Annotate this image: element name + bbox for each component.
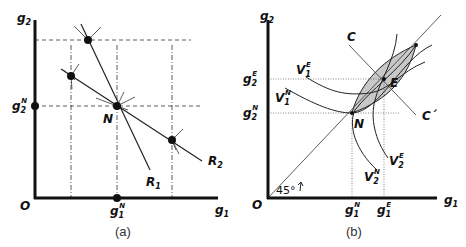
x-axis-label: g1: [215, 203, 229, 219]
x-axis-label: g1: [444, 193, 458, 209]
curve-label-R2: R2: [208, 154, 223, 170]
panel-b: g2 g1 O g2E g2N g1N g1E N E C C´ V1E V1N…: [243, 9, 458, 239]
point-left: [67, 72, 75, 80]
point-N: [113, 102, 121, 110]
point-E: [382, 77, 386, 81]
tick-label-g1E: g1E: [377, 201, 391, 219]
caption-a: (a): [115, 224, 131, 239]
curve-label-R1: R1: [146, 175, 161, 191]
line-label-C-prime: C´: [422, 109, 438, 123]
curve-label-V2E: V2E: [389, 152, 404, 170]
angle-label: 45°: [276, 184, 296, 197]
curve-label-V1N: V1N: [275, 89, 291, 107]
curve-label-V2N: V2N: [364, 168, 380, 186]
point-g2N: [31, 102, 39, 110]
point-top: [84, 36, 92, 44]
tick-label-g2N: g2N: [12, 97, 27, 115]
point-right: [168, 136, 176, 144]
figure: g2 g1 O g2N g1N N R1 R2 (a): [0, 0, 466, 247]
curve-V2E: [373, 34, 397, 158]
origin-label: O: [20, 199, 30, 213]
point-label-N: N: [354, 117, 364, 131]
line-label-C: C: [347, 30, 356, 44]
panel-a: g2 g1 O g2N g1N N R1 R2 (a): [12, 11, 229, 239]
point-label-E: E: [390, 76, 399, 90]
tick-label-g1N: g1N: [345, 201, 360, 219]
origin-label: O: [252, 198, 262, 212]
tick-label-g2N: g2N: [243, 104, 258, 122]
y-axis-label: g2: [17, 11, 32, 27]
point-label-N: N: [103, 112, 113, 126]
point-lens-top: [414, 43, 418, 47]
tick-label-g2E: g2E: [243, 70, 258, 88]
point-g1N: [113, 194, 121, 202]
curve-label-V1E: V1E: [296, 61, 311, 79]
reaction-curve-R1: [81, 24, 150, 170]
point-N: [350, 111, 354, 115]
reaction-curve-R2: [61, 69, 202, 161]
direction-ticks: [63, 26, 183, 154]
angle-arrow-icon: [298, 182, 303, 191]
caption-b: (b): [346, 224, 362, 239]
y-axis-label: g2: [260, 9, 275, 25]
tick-label-g1N: g1N: [110, 202, 125, 220]
